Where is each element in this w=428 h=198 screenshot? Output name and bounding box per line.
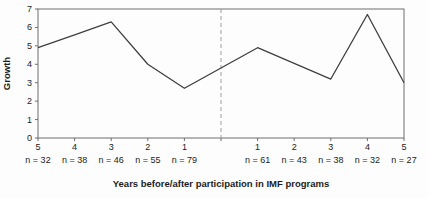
x-tick-label: 4 xyxy=(365,142,370,152)
n-label: n = 43 xyxy=(282,155,307,165)
n-label: n = 79 xyxy=(172,155,197,165)
y-tick-label: 7 xyxy=(27,4,32,14)
n-label: n = 27 xyxy=(391,155,416,165)
x-axis-title: Years before/after participation in IMF … xyxy=(113,178,329,189)
x-tick-label: 2 xyxy=(145,142,150,152)
y-tick-label: 0 xyxy=(27,133,32,143)
y-tick-label: 5 xyxy=(27,41,32,51)
n-label: n = 32 xyxy=(25,155,50,165)
y-tick-label: 2 xyxy=(27,96,32,106)
y-tick-label: 1 xyxy=(27,115,32,125)
x-tick-label: 1 xyxy=(255,142,260,152)
y-tick-label: 4 xyxy=(27,59,32,69)
n-label: n = 38 xyxy=(318,155,343,165)
n-label: n = 55 xyxy=(135,155,160,165)
n-label: n = 32 xyxy=(355,155,380,165)
y-tick-label: 6 xyxy=(27,22,32,32)
x-tick-label: 3 xyxy=(109,142,114,152)
x-tick-label: 2 xyxy=(292,142,297,152)
chart-container: 012345675432112345n = 32n = 38n = 46n = … xyxy=(0,0,428,198)
x-tick-label: 5 xyxy=(401,142,406,152)
n-label: n = 46 xyxy=(99,155,124,165)
x-tick-label: 5 xyxy=(35,142,40,152)
n-label: n = 38 xyxy=(62,155,87,165)
x-tick-label: 3 xyxy=(328,142,333,152)
x-tick-label: 4 xyxy=(72,142,77,152)
line-chart: 012345675432112345n = 32n = 38n = 46n = … xyxy=(0,0,428,198)
n-label: n = 61 xyxy=(245,155,270,165)
y-tick-label: 3 xyxy=(27,78,32,88)
x-tick-label: 1 xyxy=(182,142,187,152)
y-axis-title: Growth xyxy=(1,57,12,90)
